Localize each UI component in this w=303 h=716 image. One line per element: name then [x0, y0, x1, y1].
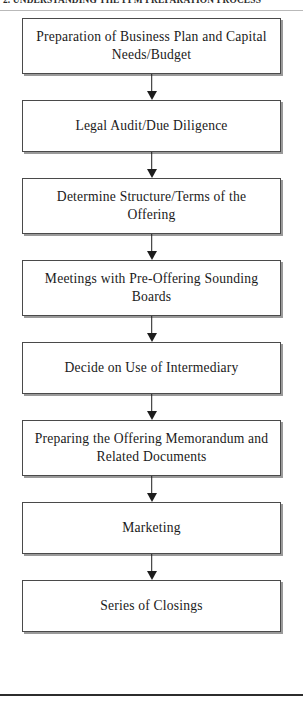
arrow-head-icon	[147, 333, 157, 342]
flow-arrow-5-6	[0, 394, 303, 420]
flow-node-7: Marketing	[0, 502, 303, 554]
process-box: Series of Closings	[22, 580, 281, 632]
process-box: Marketing	[22, 502, 281, 554]
process-box: Preparation of Business Plan and Capital…	[22, 18, 281, 74]
header-divider	[0, 10, 303, 11]
arrow-head-icon	[147, 251, 157, 260]
arrow-head-icon	[147, 493, 157, 502]
process-box-label: Marketing	[122, 519, 180, 537]
arrow-head-icon	[147, 571, 157, 580]
process-box-label: Preparing the Offering Memorandum and Re…	[31, 430, 272, 465]
flow-node-6: Preparing the Offering Memorandum and Re…	[0, 420, 303, 476]
process-box: Preparing the Offering Memorandum and Re…	[22, 420, 281, 476]
process-box-label: Legal Audit/Due Diligence	[75, 117, 227, 135]
flow-node-8: Series of Closings	[0, 580, 303, 632]
process-box-label: Meetings with Pre-Offering Sounding Boar…	[31, 270, 272, 305]
arrow-head-icon	[147, 411, 157, 420]
process-box: Determine Structure/Terms of the Offerin…	[22, 178, 281, 234]
process-box: Meetings with Pre-Offering Sounding Boar…	[22, 260, 281, 316]
flow-node-3: Determine Structure/Terms of the Offerin…	[0, 178, 303, 234]
flow-node-2: Legal Audit/Due Diligence	[0, 100, 303, 152]
flow-arrow-1-2	[0, 74, 303, 100]
flow-arrow-4-5	[0, 316, 303, 342]
process-box-label: Decide on Use of Intermediary	[64, 359, 238, 377]
arrow-head-icon	[147, 91, 157, 100]
flow-arrow-2-3	[0, 152, 303, 178]
running-header-text: 2. UNDERSTANDING THE PPM PREPARATION PRO…	[3, 0, 261, 5]
flowchart: Preparation of Business Plan and Capital…	[0, 18, 303, 632]
flow-node-4: Meetings with Pre-Offering Sounding Boar…	[0, 260, 303, 316]
flow-node-1: Preparation of Business Plan and Capital…	[0, 18, 303, 74]
process-box: Legal Audit/Due Diligence	[22, 100, 281, 152]
flow-arrow-3-4	[0, 234, 303, 260]
process-box-label: Series of Closings	[100, 597, 203, 615]
flow-arrow-6-7	[0, 476, 303, 502]
flow-node-5: Decide on Use of Intermediary	[0, 342, 303, 394]
arrow-head-icon	[147, 169, 157, 178]
flow-arrow-7-8	[0, 554, 303, 580]
process-box: Decide on Use of Intermediary	[22, 342, 281, 394]
footer-divider	[0, 694, 303, 696]
process-box-label: Preparation of Business Plan and Capital…	[31, 28, 272, 63]
process-box-label: Determine Structure/Terms of the Offerin…	[31, 188, 272, 223]
